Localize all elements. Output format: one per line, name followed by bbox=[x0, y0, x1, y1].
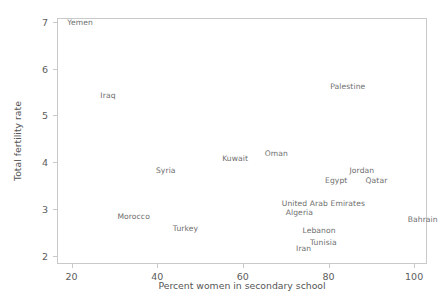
x-axis-title: Percent women in secondary school bbox=[158, 280, 325, 291]
y-axis-title: Total fertility rate bbox=[12, 101, 23, 181]
data-point-label: Yemen bbox=[67, 17, 93, 26]
data-point-label: Oman bbox=[265, 148, 288, 157]
data-point-label: Iran bbox=[296, 243, 311, 252]
data-point-label: Turkey bbox=[173, 224, 198, 233]
data-point-label: Tunisia bbox=[310, 238, 337, 247]
data-point-label: Morocco bbox=[117, 212, 150, 221]
data-point-label: Kuwait bbox=[222, 154, 248, 163]
data-point-label: Qatar bbox=[366, 176, 388, 185]
data-point-label: United Arab Emirates bbox=[282, 198, 365, 207]
data-point-label: Jordan bbox=[350, 165, 375, 174]
data-point-label: Lebanon bbox=[302, 225, 335, 234]
data-point-labels: YemenIraqPalestineSyriaKuwaitOmanJordanE… bbox=[0, 0, 446, 306]
data-point-label: Egypt bbox=[325, 176, 347, 185]
scatter-plot-figure: 234567 20406080100 YemenIraqPalestineSyr… bbox=[0, 0, 446, 306]
data-point-label: Iraq bbox=[100, 91, 115, 100]
data-point-label: Syria bbox=[156, 165, 176, 174]
data-point-label: Algeria bbox=[286, 208, 313, 217]
data-point-label: Bahrain bbox=[408, 215, 438, 224]
data-point-label: Palestine bbox=[330, 82, 365, 91]
